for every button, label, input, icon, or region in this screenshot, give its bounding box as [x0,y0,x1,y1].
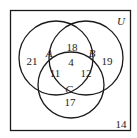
universe-box [11,11,131,131]
set-c-label: C [65,84,72,95]
region-a-b-c: 4 [68,57,74,68]
region-outside: 14 [116,119,127,130]
region-a-and-b-only: 18 [67,42,78,53]
region-a-only: 21 [27,56,38,67]
region-b-and-c-only: 12 [81,68,92,79]
region-a-and-c-only: 11 [50,68,61,79]
region-b-only: 19 [102,56,113,67]
set-b-label: B [89,48,96,59]
universe-label: U [117,16,125,27]
set-a-label: A [46,48,53,59]
region-c-only: 17 [65,97,76,108]
